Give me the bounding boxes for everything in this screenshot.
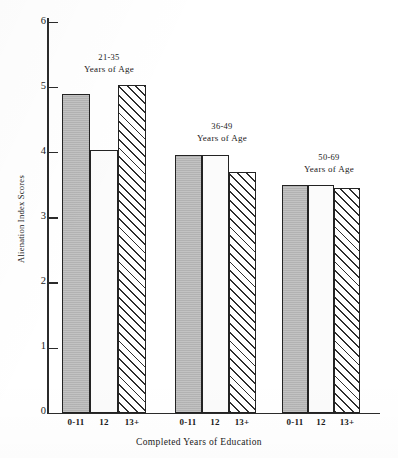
y-tick-label-6: 6	[28, 16, 46, 26]
bar-36-49-12	[202, 155, 229, 413]
y-tick-2	[48, 282, 58, 284]
group-caption-range: 21-35	[59, 52, 159, 64]
x-label-50-69-13plus: 13+	[332, 417, 362, 427]
bar-chart: 6 5 4 3 2 1 0 Alienation Index Scores Co…	[0, 0, 398, 458]
x-axis-title: Completed Years of Education	[0, 437, 398, 447]
x-label-36-49-13plus: 13+	[227, 417, 257, 427]
y-tick-label-1: 1	[28, 341, 46, 351]
x-label-21-35-13plus: 13+	[117, 417, 147, 427]
bar-21-35-12	[90, 150, 118, 414]
x-label-21-35-12: 12	[89, 417, 119, 427]
y-axis-line	[47, 18, 49, 414]
x-label-36-49-12: 12	[200, 417, 230, 427]
group-caption-36-49: 36-49 Years of Age	[172, 121, 272, 144]
y-tick-5	[48, 87, 58, 89]
x-label-36-49-0-11: 0-11	[173, 417, 203, 427]
y-tick-1	[48, 348, 58, 350]
y-axis-title: Alienation Index Scores	[16, 134, 26, 304]
bar-36-49-0-11	[175, 155, 202, 413]
bar-50-69-12	[308, 185, 334, 413]
x-label-21-35-0-11: 0-11	[61, 417, 91, 427]
y-tick-3	[48, 217, 58, 219]
group-caption-range: 36-49	[172, 121, 272, 133]
bar-21-35-0-11	[62, 94, 90, 413]
bar-21-35-13plus	[118, 85, 146, 413]
group-caption-sub: Years of Age	[59, 64, 159, 76]
bar-50-69-0-11	[282, 185, 308, 413]
y-tick-4	[48, 152, 58, 154]
bar-36-49-13plus	[229, 172, 256, 413]
y-tick-6	[48, 22, 58, 24]
y-tick-label-5: 5	[28, 81, 46, 91]
group-caption-sub: Years of Age	[172, 133, 272, 145]
y-tick-label-3: 3	[28, 211, 46, 221]
bar-50-69-13plus	[334, 188, 360, 413]
group-caption-50-69: 50-69 Years of Age	[279, 152, 379, 175]
y-tick-label-2: 2	[28, 276, 46, 286]
group-caption-21-35: 21-35 Years of Age	[59, 52, 159, 75]
y-tick-label-4: 4	[28, 146, 46, 156]
y-tick-label-0: 0	[28, 406, 46, 416]
group-caption-sub: Years of Age	[279, 164, 379, 176]
group-caption-range: 50-69	[279, 152, 379, 164]
